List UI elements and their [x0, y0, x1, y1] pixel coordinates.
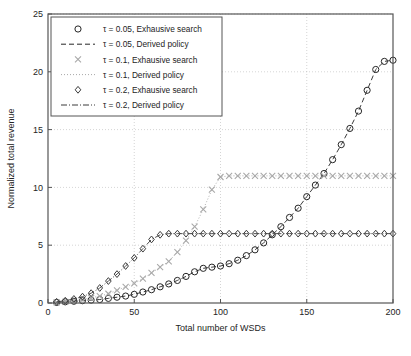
- legend-item-label: τ = 0.05, Exhausive search: [103, 24, 202, 34]
- ytick-label: 10: [33, 183, 43, 193]
- data-marker: [148, 287, 154, 293]
- xtick-label: 0: [45, 307, 50, 317]
- xtick-label: 200: [385, 307, 400, 317]
- xtick-label: 100: [213, 307, 228, 317]
- legend-item-label: τ = 0.1, Derived policy: [103, 70, 185, 80]
- series-2: [54, 230, 396, 305]
- data-marker: [364, 87, 370, 93]
- series-line: [57, 234, 393, 302]
- chart-figure: 0510152025050100150200Total number of WS…: [0, 0, 411, 356]
- legend-item-label: τ = 0.2, Exhausive search: [103, 85, 198, 95]
- legend: τ = 0.05, Exhausive searchτ = 0.05, Deri…: [51, 17, 222, 116]
- ytick-label: 20: [33, 67, 43, 77]
- ytick-label: 25: [33, 9, 43, 19]
- data-marker: [355, 108, 361, 114]
- y-axis-label: Normalized total revenue: [6, 108, 16, 208]
- figure-caption: [26, 344, 326, 356]
- chart-svg: 0510152025050100150200Total number of WS…: [0, 0, 411, 356]
- ytick-label: 15: [33, 125, 43, 135]
- figure-root: 0510152025050100150200Total number of WS…: [0, 0, 411, 356]
- legend-item-label: τ = 0.05, Derived policy: [103, 39, 189, 49]
- series-1: [54, 173, 396, 306]
- data-marker: [330, 157, 336, 163]
- legend-item-label: τ = 0.2, Derived policy: [103, 100, 185, 110]
- ytick-label: 0: [38, 298, 43, 308]
- ytick-label: 5: [38, 240, 43, 250]
- data-marker: [252, 247, 258, 253]
- xtick-label: 150: [299, 307, 314, 317]
- legend-item-label: τ = 0.1, Exhausive search: [103, 55, 198, 65]
- x-axis-label: Total number of WSDs: [175, 323, 266, 333]
- data-marker: [243, 253, 249, 259]
- data-marker: [140, 289, 146, 295]
- data-marker: [192, 269, 198, 275]
- xtick-label: 50: [129, 307, 139, 317]
- data-marker: [286, 214, 292, 220]
